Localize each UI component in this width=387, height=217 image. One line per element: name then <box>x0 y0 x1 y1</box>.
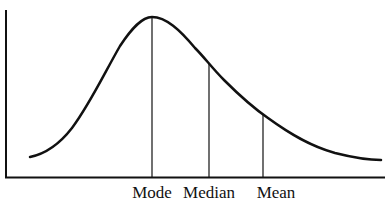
median-label: Median <box>183 183 235 202</box>
mean-label: Mean <box>257 183 296 202</box>
mode-label: Mode <box>132 183 172 202</box>
distribution-curve <box>30 17 381 160</box>
skewed-distribution-chart: Mode Median Mean <box>0 0 387 217</box>
